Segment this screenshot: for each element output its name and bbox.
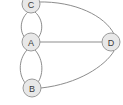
graph-canvas: C A B D bbox=[0, 0, 123, 105]
node-layer: C A B D bbox=[22, 0, 120, 97]
node-a-circle[interactable] bbox=[22, 33, 40, 51]
node-d-circle[interactable] bbox=[102, 33, 120, 51]
edge-c-d-arc bbox=[38, 2, 114, 34]
node-c[interactable]: C bbox=[22, 0, 40, 13]
edge-a-b-left bbox=[20, 50, 27, 85]
graph-diagram: C A B D bbox=[0, 0, 123, 105]
node-d[interactable]: D bbox=[102, 33, 120, 51]
node-a[interactable]: A bbox=[22, 33, 40, 51]
node-c-circle[interactable] bbox=[22, 0, 40, 13]
node-b[interactable]: B bbox=[23, 79, 41, 97]
edge-b-d-arc bbox=[41, 51, 114, 88]
node-b-circle[interactable] bbox=[23, 79, 41, 97]
